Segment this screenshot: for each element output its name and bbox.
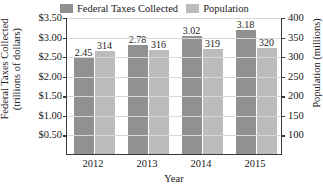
legend-label-population: Population (203, 3, 249, 14)
y-axis-left-tick-mark (63, 18, 67, 19)
bar-federal-taxes-collected (74, 58, 94, 154)
x-axis-tick-label: 2013 (124, 158, 170, 170)
y-axis-title-left-line2: (trillions of dollars) (11, 0, 23, 139)
legend-entry-population: Population (186, 3, 249, 14)
y-axis-left-tick-label: $2.50 (24, 51, 62, 62)
bar-population (203, 49, 223, 154)
y-axis-left-tick-label: $2.00 (24, 71, 62, 82)
bar-value-label-population: 316 (145, 40, 173, 50)
y-axis-right-tick-mark (281, 96, 285, 97)
y-axis-left-tick-mark (63, 38, 67, 39)
bar-value-label-population: 314 (91, 41, 119, 51)
y-axis-right-tick-mark (281, 116, 285, 117)
y-axis-left-tick-mark (63, 116, 67, 117)
bar-population (95, 51, 115, 154)
gridline (67, 77, 281, 78)
gridline (67, 57, 281, 58)
bar-population (149, 50, 169, 154)
y-axis-left-tick-labels: $3.50$3.00$2.50$2.00$1.50$1.00$0.50 (24, 18, 62, 155)
y-axis-left-tick-mark (63, 96, 67, 97)
plot-area: 2.453142.783163.023193.18320 (66, 18, 282, 155)
y-axis-left-tick-mark (63, 77, 67, 78)
y-axis-right-tick-label: 250 (288, 71, 314, 82)
bar-federal-taxes-collected (128, 45, 148, 154)
x-axis-tick-label: 2015 (232, 158, 278, 170)
y-axis-right-tick-mark (281, 135, 285, 136)
x-axis-tick-label: 2012 (70, 158, 116, 170)
y-axis-right-tick-mark (281, 18, 285, 19)
y-axis-right-tick-label: 400 (288, 12, 314, 23)
legend-swatch-population (186, 4, 199, 13)
y-axis-left-tick-mark (63, 57, 67, 58)
gridline (67, 18, 281, 19)
bar-population (257, 48, 277, 154)
bar-value-label-population: 319 (199, 39, 227, 49)
gridline (67, 135, 281, 136)
y-axis-left-tick-label: $1.00 (24, 110, 62, 121)
y-axis-right-tick-label: 100 (288, 129, 314, 140)
gridline (67, 116, 281, 117)
y-axis-right-tick-mark (281, 57, 285, 58)
x-axis-tick-labels: 2012201320142015 (66, 158, 282, 172)
y-axis-title-left-line1: Federal Taxes Collected (0, 0, 11, 139)
gridline (67, 38, 281, 39)
y-axis-left-tick-label: $3.00 (24, 32, 62, 43)
y-axis-left-tick-label: $3.50 (24, 12, 62, 23)
bar-value-label-federal-taxes-collected: 3.18 (232, 20, 260, 30)
x-axis-tick-label: 2014 (178, 158, 224, 170)
y-axis-right-tick-label: 200 (288, 90, 314, 101)
y-axis-left-tick-mark (63, 135, 67, 136)
y-axis-right-tick-label: 300 (288, 51, 314, 62)
gridline (67, 96, 281, 97)
y-axis-right-tick-label: 150 (288, 110, 314, 121)
y-axis-right-tick-mark (281, 38, 285, 39)
chart-legend: Federal Taxes Collected Population (60, 1, 260, 15)
y-axis-right-tick-mark (281, 77, 285, 78)
x-axis-title: Year (66, 173, 282, 185)
bar-value-label-federal-taxes-collected: 3.02 (178, 26, 206, 36)
y-axis-left-tick-label: $0.50 (24, 129, 62, 140)
bar-value-label-population: 320 (253, 38, 281, 48)
y-axis-right-tick-label: 350 (288, 32, 314, 43)
legend-entry-federal-taxes-collected: Federal Taxes Collected (60, 3, 178, 14)
y-axis-left-tick-label: $1.50 (24, 90, 62, 101)
legend-label-federal-taxes-collected: Federal Taxes Collected (77, 3, 178, 14)
y-axis-right-tick-labels: 400350300250200150100 (288, 18, 314, 155)
y-axis-title-left: Federal Taxes Collected (trillions of do… (0, 0, 23, 139)
